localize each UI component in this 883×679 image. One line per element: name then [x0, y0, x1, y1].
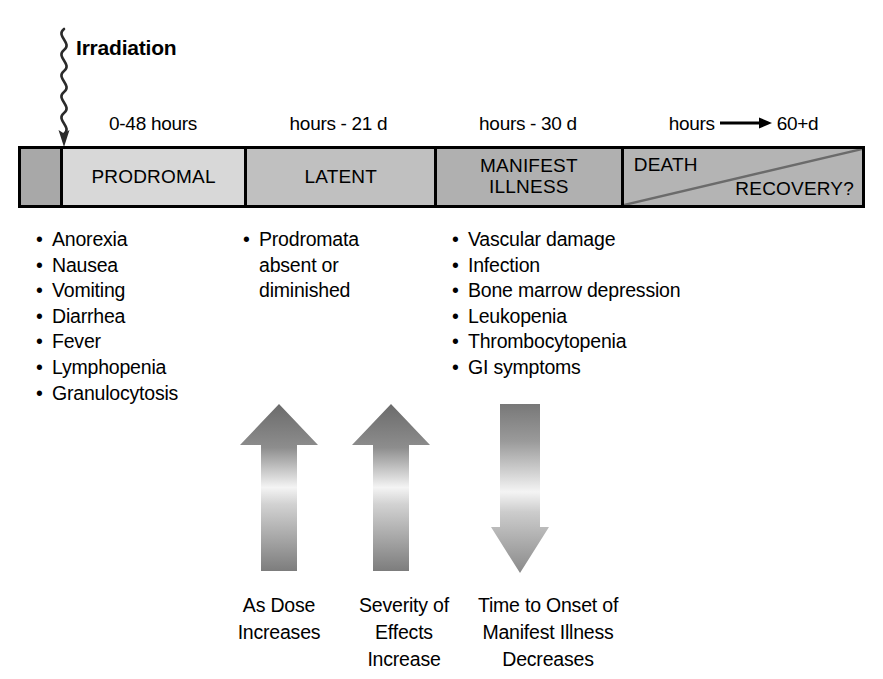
symptom-text: Granulocytosis [52, 382, 178, 404]
list-item: •Vascular damage [452, 227, 752, 253]
phase-label-manifest-illness: MANIFEST ILLNESS [480, 156, 578, 197]
up-arrow-icon [240, 404, 318, 571]
symptom-list-prodromal: •Anorexia •Nausea •Vomiting •Diarrhea •F… [36, 227, 246, 406]
list-item: •Anorexia [36, 227, 246, 253]
phase-cell-manifest-illness: MANIFEST ILLNESS [434, 149, 621, 205]
time-label-outcome-suffix: 60+d [777, 113, 819, 134]
phase-label-latent: LATENT [304, 167, 377, 188]
bullet-glyph: • [36, 355, 43, 381]
trend-caption-line: Manifest Illness [464, 619, 632, 646]
bullet-glyph: • [36, 278, 43, 304]
phase-label-prodromal: PRODROMAL [91, 167, 215, 188]
symptom-text: Infection [468, 254, 540, 276]
phase-cell-latent: LATENT [244, 149, 434, 205]
trend-caption-line: Increase [340, 646, 468, 673]
list-item: •Prodromata [243, 227, 433, 253]
time-label-manifest: hours - 30 d [434, 113, 622, 135]
list-item: •Fever [36, 329, 246, 355]
up-arrow-icon [352, 404, 430, 571]
irradiation-label: Irradiation [76, 36, 176, 60]
list-item: •Thrombocytopenia [452, 329, 752, 355]
trend-caption-time-to-onset: Time to Onset of Manifest Illness Decrea… [464, 592, 632, 673]
phase-timeline-bar: PRODROMAL LATENT MANIFEST ILLNESS DEATH … [18, 146, 865, 208]
time-label-latent: hours - 21 d [243, 113, 434, 135]
bullet-glyph: • [452, 329, 459, 355]
phase-label-manifest-line1: MANIFEST [480, 155, 578, 176]
bullet-glyph: • [243, 227, 250, 253]
trend-caption-line: Effects [340, 619, 468, 646]
symptom-text: Lymphopenia [52, 356, 166, 378]
symptom-text: Fever [52, 330, 101, 352]
symptom-text: Thrombocytopenia [468, 330, 626, 352]
time-label-outcome: hours 60+d [622, 113, 865, 135]
bullet-glyph: • [36, 253, 43, 279]
bullet-glyph: • [36, 227, 43, 253]
symptom-list-manifest-illness: •Vascular damage •Infection •Bone marrow… [452, 227, 752, 381]
bullet-glyph: • [452, 253, 459, 279]
long-right-arrow-icon [718, 116, 774, 130]
symptom-list-latent: •Prodromata absent or diminished [243, 227, 433, 304]
trend-caption-line: Increases [218, 619, 340, 646]
trend-caption-severity: Severity of Effects Increase [340, 592, 468, 673]
trend-caption-line: Time to Onset of [464, 592, 632, 619]
phase-cell-outcome: DEATH RECOVERY? [621, 149, 862, 205]
symptom-text: Bone marrow depression [468, 279, 680, 301]
symptom-text-continuation: absent or [243, 253, 433, 279]
symptom-text: Nausea [52, 254, 118, 276]
list-item: •Lymphopenia [36, 355, 246, 381]
symptom-text: Anorexia [52, 228, 127, 250]
trend-caption-line: Severity of [340, 592, 468, 619]
trend-caption-dose: As Dose Increases [218, 592, 340, 646]
symptom-text: Vascular damage [468, 228, 615, 250]
phase-label-recovery: RECOVERY? [735, 179, 854, 200]
list-item: •Nausea [36, 253, 246, 279]
phase-label-death: DEATH [634, 155, 698, 176]
list-item: •Leukopenia [452, 304, 752, 330]
phase-cell-prodromal: PRODROMAL [60, 149, 245, 205]
symptom-text-continuation: diminished [243, 278, 433, 304]
time-label-outcome-prefix: hours [669, 113, 715, 134]
phase-label-manifest-line2: ILLNESS [489, 176, 569, 197]
list-item: •Infection [452, 253, 752, 279]
down-arrow-icon [491, 404, 549, 573]
trend-caption-line: As Dose [218, 592, 340, 619]
list-item: •Diarrhea [36, 304, 246, 330]
bullet-glyph: • [452, 278, 459, 304]
symptom-text: GI symptoms [468, 356, 581, 378]
list-item: •Granulocytosis [36, 381, 246, 407]
symptom-text: Vomiting [52, 279, 125, 301]
list-item: •Vomiting [36, 278, 246, 304]
time-label-prodromal: 0-48 hours [60, 113, 246, 135]
list-item: •Bone marrow depression [452, 278, 752, 304]
bullet-glyph: • [452, 355, 459, 381]
phase-cell-exposure [21, 149, 60, 205]
symptom-text: Leukopenia [468, 305, 567, 327]
bullet-glyph: • [452, 304, 459, 330]
bullet-glyph: • [452, 227, 459, 253]
bullet-glyph: • [36, 329, 43, 355]
bullet-glyph: • [36, 381, 43, 407]
symptom-text: Prodromata [259, 228, 359, 250]
bullet-glyph: • [36, 304, 43, 330]
trend-caption-line: Decreases [464, 646, 632, 673]
list-item: •GI symptoms [452, 355, 752, 381]
symptom-text: Diarrhea [52, 305, 125, 327]
radiation-syndrome-diagram: Irradiation 0-48 hours hours - 21 d hour… [0, 0, 883, 679]
